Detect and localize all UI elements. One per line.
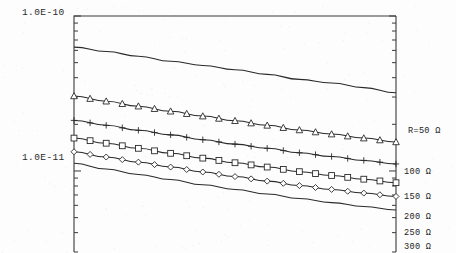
data-markers xyxy=(71,93,400,200)
chart-container: 1.0E-10 1.0E-11 R=50 Ω 100 Ω 150 Ω 200 Ω… xyxy=(0,0,456,253)
curve-300-ohm xyxy=(74,163,396,210)
scan-artifacts xyxy=(2,3,456,253)
plot-area xyxy=(0,0,456,253)
curve-50-ohm xyxy=(74,47,396,93)
